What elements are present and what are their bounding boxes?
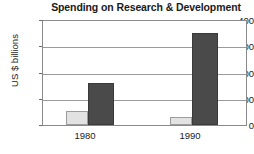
bar-1990-series-1 xyxy=(170,117,192,125)
bar-1990-series-2 xyxy=(192,33,218,125)
plot-area xyxy=(42,20,247,126)
chart-title: Spending on Research & Development xyxy=(45,1,247,13)
bar-chart: Spending on Research & Development US $ … xyxy=(0,0,254,154)
y-axis-title: US $ billions xyxy=(9,23,20,99)
x-tick-label-1980: 1980 xyxy=(50,130,120,141)
x-tick-label-1990: 1990 xyxy=(155,130,225,141)
bar-1980-series-1 xyxy=(66,111,88,125)
bar-1980-series-2 xyxy=(88,83,114,125)
